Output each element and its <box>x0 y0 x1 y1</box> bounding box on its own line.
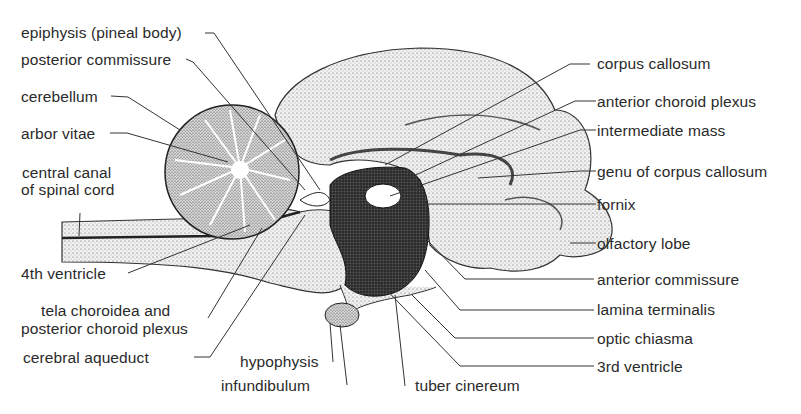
label-anterior-commissure: anterior commissure <box>597 271 739 288</box>
label-genu-corpus-callosum: genu of corpus callosum <box>597 163 767 180</box>
label-central-canal-2: of spinal cord <box>21 181 115 198</box>
label-anterior-choroid-plexus: anterior choroid plexus <box>597 93 756 110</box>
label-infundibulum: infundibulum <box>221 377 310 394</box>
label-hypophysis: hypophysis <box>240 353 319 370</box>
label-optic-chiasma: optic chiasma <box>597 330 693 347</box>
label-central-canal-1: central canal <box>22 164 111 181</box>
label-tuber-cinereum: tuber cinereum <box>415 377 520 394</box>
label-tela-choroidea-2: posterior choroid plexus <box>21 320 188 337</box>
label-cerebellum: cerebellum <box>21 88 98 105</box>
label-3rd-ventricle: 3rd ventricle <box>597 358 683 375</box>
label-olfactory-lobe: olfactory lobe <box>597 235 691 252</box>
label-fornix: fornix <box>597 196 636 213</box>
label-arbor-vitae: arbor vitae <box>21 125 95 142</box>
label-cerebral-aqueduct: cerebral aqueduct <box>23 349 149 366</box>
label-4th-ventricle: 4th ventricle <box>21 265 106 282</box>
label-posterior-commissure: posterior commissure <box>21 51 171 68</box>
label-corpus-callosum: corpus callosum <box>597 55 711 72</box>
label-lamina-terminalis: lamina terminalis <box>597 301 715 318</box>
cerebellum-shape <box>165 105 299 239</box>
label-tela-choroidea-1: tela choroidea and <box>41 302 170 319</box>
label-epiphysis: epiphysis (pineal body) <box>21 24 182 41</box>
label-intermediate-mass: intermediate mass <box>597 122 725 139</box>
